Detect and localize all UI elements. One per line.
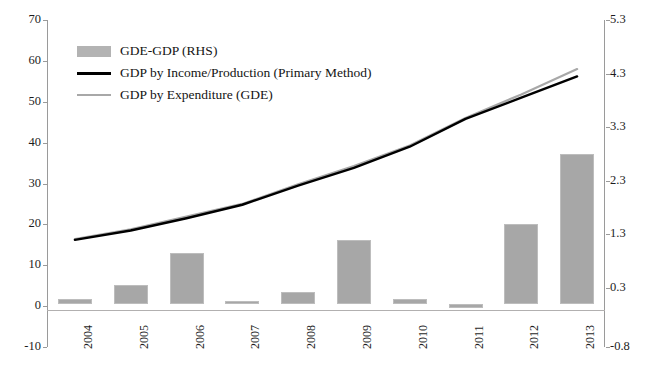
- chart-container: -10010203040506070 -0.80.31.32.33.34.35.…: [0, 0, 651, 371]
- y-axis-right-tick-mark: [606, 74, 610, 75]
- x-axis-label-2008: 2008: [304, 325, 319, 349]
- legend-bar-swatch-icon: [77, 46, 111, 57]
- y-axis-left-tick-label: 50: [1, 95, 41, 107]
- y-axis-left-tick-label: 40: [1, 136, 41, 148]
- x-axis-label-2005: 2005: [137, 325, 152, 349]
- y-axis-right-tick-mark: [606, 234, 610, 235]
- y-axis-right-tick-label: 4.3: [610, 67, 650, 79]
- legend-item-label: GDP by Income/Production (Primary Method…: [120, 65, 371, 81]
- x-axis-label-2013: 2013: [583, 325, 598, 349]
- y-axis-right-tick-label: -0.8: [610, 340, 650, 352]
- x-axis-label-2004: 2004: [81, 325, 96, 349]
- y-axis-right-tick-mark: [606, 127, 610, 128]
- y-axis-right-tick-label: 5.3: [610, 13, 650, 25]
- legend-line-black-icon: [77, 72, 111, 75]
- y-axis-right-tick-label: 3.3: [610, 120, 650, 132]
- y-axis-left-tick-label: 20: [1, 217, 41, 229]
- y-axis-left-tick-label: -10: [1, 340, 41, 352]
- x-axis-label-2010: 2010: [416, 325, 431, 349]
- legend-item-gdp-income-production: GDP by Income/Production (Primary Method…: [77, 62, 497, 84]
- legend-item-gde-gdp: GDE-GDP (RHS): [77, 40, 497, 62]
- legend-item-label: GDE-GDP (RHS): [120, 43, 217, 59]
- y-axis-left-tick-label: 30: [1, 177, 41, 189]
- x-axis-label-2012: 2012: [527, 325, 542, 349]
- x-axis-label-2006: 2006: [193, 325, 208, 349]
- legend-item-gdp-expenditure: GDP by Expenditure (GDE): [77, 84, 497, 106]
- x-axis-label-2011: 2011: [472, 325, 487, 349]
- y-axis-right-tick-mark: [606, 347, 610, 348]
- y-axis-left-tick-mark: [43, 347, 47, 348]
- y-axis-right-tick-mark: [606, 20, 610, 21]
- x-axis-label-2007: 2007: [248, 325, 263, 349]
- legend-line-gray-icon: [77, 94, 111, 96]
- y-axis-left-tick-label: 0: [1, 299, 41, 311]
- y-axis-left-tick-label: 60: [1, 54, 41, 66]
- cut-off-header-text: [30, 0, 360, 10]
- x-axis-label-2009: 2009: [360, 325, 375, 349]
- chart-legend: GDE-GDP (RHS) GDP by Income/Production (…: [77, 40, 497, 106]
- y-axis-right-tick-mark: [606, 181, 610, 182]
- y-axis-right-tick-label: 2.3: [610, 174, 650, 186]
- y-axis-right-tick-mark: [606, 288, 610, 289]
- y-axis-right-tick-label: 1.3: [610, 227, 650, 239]
- y-axis-left-tick-label: 70: [1, 13, 41, 25]
- y-axis-left-tick-label: 10: [1, 258, 41, 270]
- y-axis-right-tick-label: 0.3: [610, 281, 650, 293]
- legend-item-label: GDP by Expenditure (GDE): [120, 87, 273, 103]
